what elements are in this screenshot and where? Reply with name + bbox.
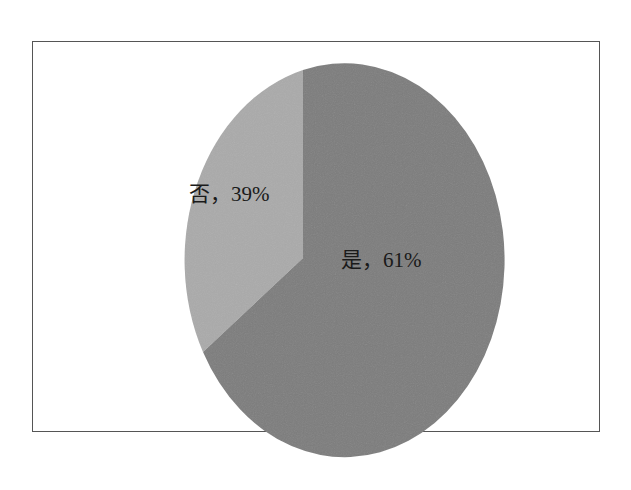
data-label-no: 否，39% [189, 177, 270, 207]
pie-chart [0, 0, 631, 490]
data-label-yes: 是，61% [341, 243, 422, 273]
